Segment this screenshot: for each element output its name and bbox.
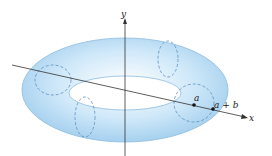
y-axis-label: y — [120, 9, 127, 19]
x-axis-arrow — [241, 114, 248, 119]
torus-diagram: y x a a + b — [0, 0, 272, 156]
point-a-label: a — [194, 93, 199, 103]
point-a — [192, 103, 196, 107]
point-a-plus-b-label: a + b — [214, 100, 239, 110]
x-axis-label: x — [249, 113, 254, 123]
